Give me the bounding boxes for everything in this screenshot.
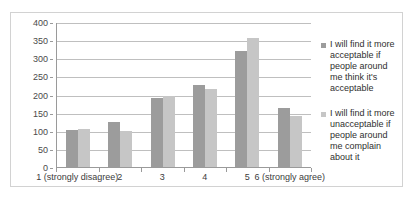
bar	[78, 129, 90, 167]
y-axis-tick-label: 400	[33, 19, 48, 28]
y-axis-tick	[50, 59, 53, 60]
bar	[193, 85, 205, 167]
bar	[120, 131, 132, 167]
bar	[205, 89, 217, 167]
x-axis-tick-label: 2	[117, 172, 122, 183]
y-axis-tick-label: 250	[33, 73, 48, 82]
y-axis-tick-label: 200	[33, 92, 48, 101]
x-axis-tick-label: 5	[245, 172, 250, 183]
y-axis-labels: 400350300250200150100500	[11, 23, 53, 168]
bar-group	[184, 23, 226, 167]
bar-group	[57, 23, 99, 167]
x-axis-tick-label: 3	[160, 172, 165, 183]
x-axis-tick-label: 4	[202, 172, 207, 183]
y-axis-tick	[50, 77, 53, 78]
bar-group	[226, 23, 268, 167]
y-axis-tick	[50, 114, 53, 115]
x-axis-tick-label: 6 (strongly agree)	[254, 172, 325, 183]
bar	[108, 122, 120, 167]
legend-swatch-icon	[321, 112, 326, 117]
y-axis-tick	[50, 41, 53, 42]
bar	[66, 130, 78, 167]
bar-group	[269, 23, 311, 167]
y-axis-tick-label: 350	[33, 37, 48, 46]
bar-series-container	[57, 23, 311, 167]
bar-group	[99, 23, 141, 167]
chart-legend: I will find it more acceptable if people…	[321, 39, 399, 177]
bar	[163, 96, 175, 167]
y-axis-tick-label: 100	[33, 128, 48, 137]
bar	[290, 116, 302, 167]
y-axis-tick	[50, 23, 53, 24]
y-axis-tick	[50, 168, 53, 169]
y-axis-tick-label: 50	[38, 146, 48, 155]
legend-label: I will find it more unacceptable if peop…	[330, 108, 399, 163]
legend-label: I will find it more acceptable if people…	[330, 39, 399, 94]
x-axis-tick-label: 1 (strongly disagree)	[36, 172, 118, 183]
y-axis-tick	[50, 96, 53, 97]
y-axis-tick-label: 300	[33, 55, 48, 64]
bar	[151, 98, 163, 167]
chart-frame: 400350300250200150100500 1 (strongly dis…	[10, 12, 403, 187]
y-axis-tick	[50, 132, 53, 133]
bar-group	[142, 23, 184, 167]
legend-entry: I will find it more acceptable if people…	[321, 39, 399, 94]
y-axis-tick-label: 150	[33, 110, 48, 119]
plot-area	[56, 23, 311, 168]
y-axis-tick	[50, 150, 53, 151]
legend-entry: I will find it more unacceptable if peop…	[321, 108, 399, 163]
bar	[247, 38, 259, 167]
bar	[235, 51, 247, 167]
legend-swatch-icon	[321, 43, 326, 48]
x-axis-labels: 1 (strongly disagree)23456 (strongly agr…	[56, 172, 314, 186]
bar	[278, 108, 290, 167]
